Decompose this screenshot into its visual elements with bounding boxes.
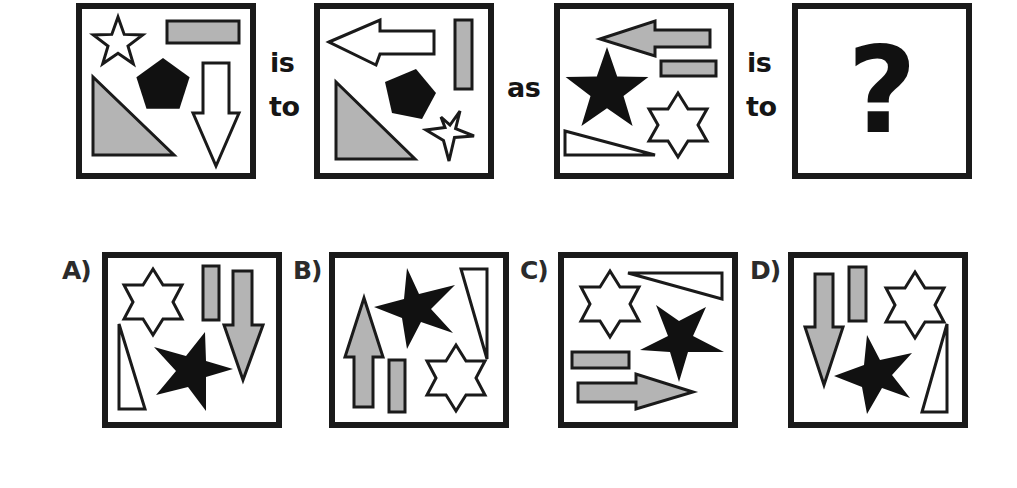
option-d-label: D) bbox=[750, 258, 780, 283]
option-c-drawing bbox=[558, 252, 738, 428]
word-is-2: is bbox=[747, 49, 771, 76]
word-is-1: is bbox=[270, 49, 294, 76]
gray-rectangle-shape bbox=[203, 266, 219, 320]
panel-2-drawing bbox=[314, 3, 494, 179]
option-a-drawing bbox=[102, 252, 282, 428]
analogy-panel-4-unknown: ? bbox=[792, 3, 972, 179]
word-to-2: to bbox=[746, 93, 776, 120]
option-d[interactable] bbox=[788, 252, 968, 428]
option-a-label: A) bbox=[62, 258, 91, 283]
analogy-panel-1 bbox=[76, 3, 256, 179]
option-b[interactable] bbox=[329, 252, 509, 428]
analogy-panel-2 bbox=[314, 3, 494, 179]
panel-1-drawing bbox=[76, 3, 256, 179]
gray-rectangle-shape bbox=[455, 20, 472, 89]
gray-rectangle-shape bbox=[167, 21, 239, 43]
option-b-label: B) bbox=[293, 258, 321, 283]
gray-rectangle-shape bbox=[661, 61, 716, 76]
panel-3-drawing bbox=[554, 3, 734, 179]
word-to-1: to bbox=[269, 93, 299, 120]
option-b-drawing bbox=[329, 252, 509, 428]
gray-rectangle-shape bbox=[572, 352, 629, 368]
analogy-panel-3 bbox=[554, 3, 734, 179]
option-a[interactable] bbox=[102, 252, 282, 428]
gray-rectangle-shape bbox=[389, 360, 405, 412]
gray-rectangle-shape bbox=[849, 267, 866, 321]
question-mark-icon: ? bbox=[792, 3, 972, 179]
word-as: as bbox=[507, 74, 540, 101]
option-c-label: C) bbox=[520, 258, 548, 283]
option-d-drawing bbox=[788, 252, 968, 428]
option-c[interactable] bbox=[558, 252, 738, 428]
